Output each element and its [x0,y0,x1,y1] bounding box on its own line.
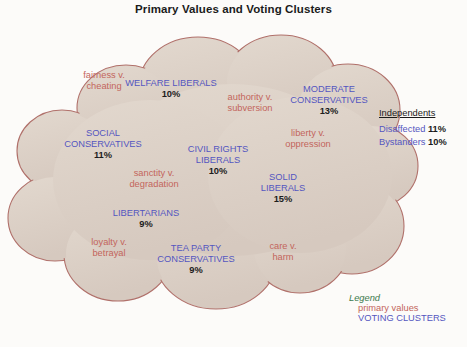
independents-bystanders-value: 10% [428,137,447,147]
value-care: care v. harm [252,241,314,263]
figure-canvas: Primary Values and Voting Clusters [0,0,467,347]
cluster-solid-liberals-label1: SOLID [242,172,324,183]
cluster-moderate-conservatives-label1: MODERATE [278,84,380,95]
independents-disaffected-value: 11% [428,124,446,134]
value-sanctity-line2: degradation [114,179,194,190]
value-loyalty-line1: loyalty v. [73,237,145,248]
value-loyalty: loyalty v. betrayal [73,237,145,259]
value-loyalty-line2: betrayal [73,248,145,259]
legend: Legend primary values VOTING CLUSTERS [349,293,446,323]
independents-title: Independents [379,108,447,118]
cluster-tea-party-conservatives-label1: TEA PARTY [144,243,248,254]
value-authority-line2: subversion [212,103,288,114]
cluster-social-conservatives-label2: CONSERVATIVES [52,139,154,150]
cluster-tea-party-conservatives-pct: 9% [144,265,248,276]
value-care-line1: care v. [252,241,314,252]
independents-row-disaffected: Disaffected 11% [379,123,447,136]
cluster-welfare-liberals: WELFARE LIBERALS 10% [116,78,226,100]
cluster-social-conservatives: SOCIAL CONSERVATIVES 11% [52,128,154,161]
value-liberty: liberty v. oppression [270,128,346,150]
legend-title: Legend [349,293,446,303]
cluster-civil-rights-liberals-label1: CIVIL RIGHTS [170,144,266,155]
cluster-solid-liberals-label2: LIBERALS [242,183,324,194]
independents-disaffected-name: Disaffected [379,124,425,134]
legend-primary-values: primary values [358,303,446,313]
cluster-solid-liberals-pct: 15% [242,194,324,205]
cluster-moderate-conservatives: MODERATE CONSERVATIVES 13% [278,84,380,117]
cluster-tea-party-conservatives-label2: CONSERVATIVES [144,254,248,265]
cluster-welfare-liberals-label: WELFARE LIBERALS [116,78,226,89]
independents-row-bystanders: Bystanders 10% [379,136,447,149]
cluster-solid-liberals: SOLID LIBERALS 15% [242,172,324,205]
cluster-moderate-conservatives-pct: 13% [278,106,380,117]
legend-voting-clusters: VOTING CLUSTERS [358,313,446,323]
cluster-tea-party-conservatives: TEA PARTY CONSERVATIVES 9% [144,243,248,276]
cluster-welfare-liberals-pct: 10% [116,89,226,100]
cluster-libertarians: LIBERTARIANS 9% [98,208,194,230]
value-liberty-line2: oppression [270,139,346,150]
cluster-civil-rights-liberals-label2: LIBERALS [170,155,266,166]
cluster-social-conservatives-label1: SOCIAL [52,128,154,139]
value-care-line2: harm [252,252,314,263]
value-liberty-line1: liberty v. [270,128,346,139]
cluster-social-conservatives-pct: 11% [52,150,154,161]
cluster-libertarians-pct: 9% [98,219,194,230]
cluster-moderate-conservatives-label2: CONSERVATIVES [278,95,380,106]
independents-block: Independents Disaffected 11% Bystanders … [379,108,447,148]
cluster-libertarians-label: LIBERTARIANS [98,208,194,219]
independents-bystanders-name: Bystanders [379,137,426,147]
